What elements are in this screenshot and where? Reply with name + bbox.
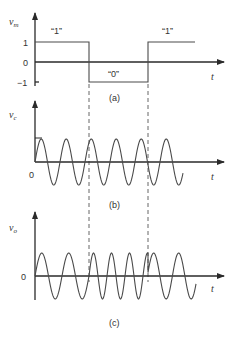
bit-label-1: “1” [51,26,62,36]
bit-label-0: “0” [108,69,119,79]
origin-label-b: 0 [29,170,34,180]
bit-boundary-lines [89,84,148,282]
ylabel-c: vo [9,222,17,235]
xlabel-a: t [211,71,214,82]
xlabel-b: t [211,171,214,182]
tick-label-minus-one: −1 [17,78,27,88]
panel-b-carrier-signal: vc 0 t (b) [9,101,224,210]
xlabel-c: t [211,283,214,294]
ylabel-b: vc [9,109,17,122]
caption-a: (a) [109,93,120,103]
bit-label-2: “1” [162,26,173,36]
caption-c: (c) [109,318,120,328]
bpsk-diagram: vm 1 0 −1 “1” “0” “1” t (a) vc 0 t (b) v… [0,0,240,341]
panel-c-modulated-signal: vo 0 t (c) [9,212,224,328]
origin-label-c: 0 [21,272,26,282]
caption-b: (b) [109,200,120,210]
tick-label-zero: 0 [23,58,28,68]
tick-label-one: 1 [23,38,28,48]
panel-a-message-signal: vm 1 0 −1 “1” “0” “1” t (a) [9,13,224,103]
ylabel-a: vm [9,16,19,29]
